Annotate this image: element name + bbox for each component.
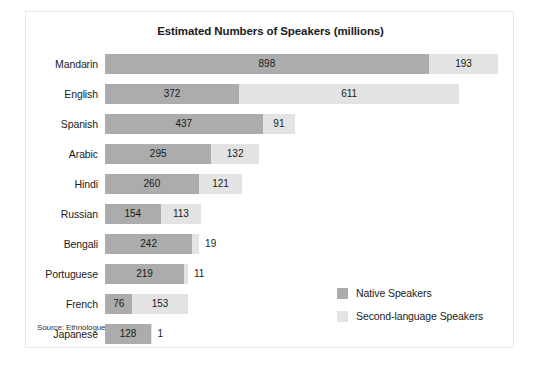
category-label-bengali: Bengali — [26, 234, 98, 254]
bar-segment-second-language: 611 — [239, 84, 459, 104]
bar-value-label-outside: 11 — [194, 264, 204, 284]
legend-swatch-icon — [337, 311, 348, 322]
category-label-english: English — [26, 84, 98, 104]
stacked-bar: 76153 — [105, 294, 188, 314]
bar-segment-native: 260 — [105, 174, 199, 194]
bar-row: Arabic295132 — [26, 144, 514, 164]
bar-segment-native: 372 — [105, 84, 239, 104]
bar-row: Mandarin898193 — [26, 54, 514, 74]
bar-row: Spanish43791 — [26, 114, 514, 134]
stacked-bar: 24219 — [105, 234, 199, 254]
stacked-bar: 154113 — [105, 204, 201, 224]
stacked-bar: 21911 — [105, 264, 188, 284]
stacked-bar: 1281 — [105, 324, 152, 344]
bar-segment-native: 242 — [105, 234, 192, 254]
bar-segment-second-language: 193 — [429, 54, 499, 74]
legend-label: Native Speakers — [356, 283, 432, 303]
stacked-bar: 260121 — [105, 174, 242, 194]
category-label-french: French — [26, 294, 98, 314]
bar-segment-second-language: 113 — [161, 204, 202, 224]
category-label-mandarin: Mandarin — [26, 54, 98, 74]
bar-segment-second-language — [184, 264, 188, 284]
stacked-bar: 295132 — [105, 144, 259, 164]
bar-segment-native: 219 — [105, 264, 184, 284]
legend-label: Second-language Speakers — [356, 306, 483, 326]
bar-value-label-outside: 1 — [158, 324, 164, 344]
category-label-spanish: Spanish — [26, 114, 98, 134]
bar-segment-native: 295 — [105, 144, 211, 164]
category-label-portuguese: Portuguese — [26, 264, 98, 284]
bar-segment-native: 437 — [105, 114, 263, 134]
bar-row: English372611 — [26, 84, 514, 104]
legend-item-native-speakers: Native Speakers — [337, 283, 514, 303]
bar-segment-second-language: 132 — [211, 144, 259, 164]
bar-segment-second-language: 91 — [263, 114, 296, 134]
bar-row: Portuguese21911 — [26, 264, 514, 284]
category-label-russian: Russian — [26, 204, 98, 224]
category-label-arabic: Arabic — [26, 144, 98, 164]
stacked-bar: 43791 — [105, 114, 295, 134]
bar-segment-second-language: 153 — [132, 294, 187, 314]
source-note: Source: Ethnologue — [37, 323, 105, 332]
legend-item-second-language-speakers: Second-language Speakers — [337, 306, 514, 326]
chart-figure: Estimated Numbers of Speakers (millions)… — [25, 11, 514, 348]
bar-segment-second-language: 121 — [199, 174, 243, 194]
bar-value-label-outside: 19 — [205, 234, 216, 254]
stacked-bar: 898193 — [105, 54, 498, 74]
bar-row: Hindi260121 — [26, 174, 514, 194]
bar-segment-native: 76 — [105, 294, 132, 314]
bar-segment-second-language — [192, 234, 199, 254]
bar-row: Russian154113 — [26, 204, 514, 224]
bar-segment-native: 898 — [105, 54, 429, 74]
chart-legend: Native SpeakersSecond-language Speakers — [337, 283, 514, 329]
bar-segment-native: 128 — [105, 324, 151, 344]
category-label-hindi: Hindi — [26, 174, 98, 194]
bar-segment-native: 154 — [105, 204, 161, 224]
legend-swatch-icon — [337, 288, 348, 299]
stacked-bar: 372611 — [105, 84, 459, 104]
bar-row: Bengali24219 — [26, 234, 514, 254]
